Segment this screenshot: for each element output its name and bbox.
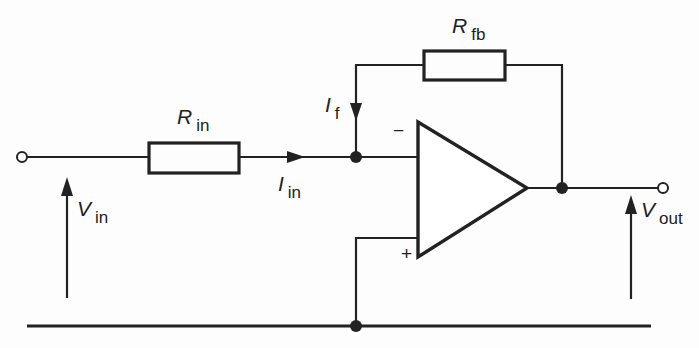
- input-voltage-label: Vin: [77, 197, 108, 221]
- input-resistor-label: Rin: [177, 105, 209, 129]
- vout-arrow-icon: [625, 195, 637, 214]
- input-resistor: [149, 143, 239, 173]
- input-current-label: Iin: [278, 172, 301, 196]
- feedback-resistor-label: Rfb: [452, 14, 485, 38]
- input-current-arrow-icon: [287, 151, 305, 163]
- output-voltage-label: Vout: [641, 198, 683, 222]
- feedback-current-label: If: [325, 93, 340, 117]
- vin-arrow-icon: [61, 177, 73, 196]
- op-amp-circuit-diagram: Rin Rfb Iin If Vin Vout − +: [0, 0, 699, 348]
- inverting-input-sign: −: [393, 120, 404, 142]
- feedback-resistor: [424, 51, 505, 80]
- feedback-current-arrow-icon: [350, 103, 362, 121]
- circuit-schematic: [0, 0, 699, 348]
- output-node: [556, 182, 568, 194]
- input-terminal: [17, 152, 27, 162]
- ground-node: [350, 320, 362, 332]
- output-terminal: [658, 183, 668, 193]
- noninverting-input-sign: +: [401, 243, 412, 265]
- op-amp-triangle: [418, 122, 527, 257]
